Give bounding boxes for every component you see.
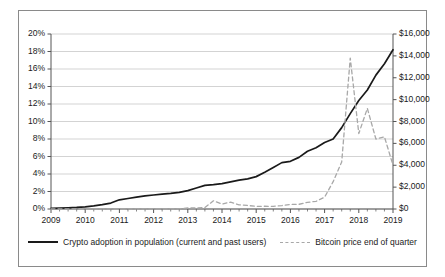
y-axis-right-tick-label: $10,000 [399, 95, 430, 104]
y-axis-left-tick-label: 10% [19, 117, 45, 126]
x-axis-tick-label: 2014 [206, 216, 238, 225]
y-axis-right-tick-label: $14,000 [399, 51, 430, 60]
gridlines-group [51, 34, 393, 209]
y-axis-left-tick-label: 4% [19, 169, 45, 178]
y-axis-right-tick-label: $12,000 [399, 73, 430, 82]
y-axis-left-tick-label: 16% [19, 64, 45, 73]
legend-item-crypto-adoption: Crypto adoption in population (current a… [28, 238, 266, 247]
x-axis-tick-label: 2010 [69, 216, 101, 225]
y-axis-left-tick-label: 14% [19, 82, 45, 91]
y-left-ticks-group [48, 34, 52, 209]
legend-swatch-solid-line-icon [28, 241, 58, 243]
y-axis-left-tick-label: 6% [19, 152, 45, 161]
legend-item-bitcoin-price: Bitcoin price end of quarter [280, 238, 417, 247]
chart-container: 0%2%4%6%8%10%12%14%16%18%20% $0$2,000$4,… [0, 0, 445, 277]
x-axis-tick-label: 2009 [35, 216, 67, 225]
y-axis-left-tick-label: 8% [19, 134, 45, 143]
x-axis-tick-label: 2018 [343, 216, 375, 225]
chart-plot-area [19, 11, 426, 266]
y-axis-right-tick-label: $8,000 [399, 117, 425, 126]
x-axis-tick-label: 2012 [138, 216, 170, 225]
y-axis-left-tick-label: 12% [19, 99, 45, 108]
x-axis-tick-label: 2013 [172, 216, 204, 225]
y-right-ticks-group [393, 34, 397, 209]
y-axis-left-tick-label: 18% [19, 47, 45, 56]
y-axis-right-tick-label: $16,000 [399, 29, 430, 38]
legend-label-bitcoin-price: Bitcoin price end of quarter [315, 238, 417, 247]
x-axis-tick-label: 2017 [309, 216, 341, 225]
series-line-crypto-adoption [51, 50, 393, 209]
y-axis-left-tick-label: 0% [19, 204, 45, 213]
chart-frame: 0%2%4%6%8%10%12%14%16%18%20% $0$2,000$4,… [18, 10, 427, 267]
y-axis-right-tick-label: $4,000 [399, 160, 425, 169]
y-axis-left-tick-label: 20% [19, 29, 45, 38]
series-line-bitcoin-price [51, 58, 393, 209]
legend-swatch-dashed-line-icon [280, 242, 310, 243]
x-axis-tick-label: 2016 [274, 216, 306, 225]
x-axis-ticks-group [51, 209, 393, 213]
x-axis-tick-label: 2011 [103, 216, 135, 225]
legend-label-crypto-adoption: Crypto adoption in population (current a… [63, 238, 266, 247]
y-axis-right-tick-label: $0 [399, 204, 408, 213]
y-axis-right-tick-label: $6,000 [399, 138, 425, 147]
x-axis-tick-label: 2019 [377, 216, 409, 225]
chart-legend: Crypto adoption in population (current a… [18, 238, 427, 247]
x-axis-tick-label: 2015 [240, 216, 272, 225]
y-axis-right-tick-label: $2,000 [399, 182, 425, 191]
y-axis-left-tick-label: 2% [19, 187, 45, 196]
